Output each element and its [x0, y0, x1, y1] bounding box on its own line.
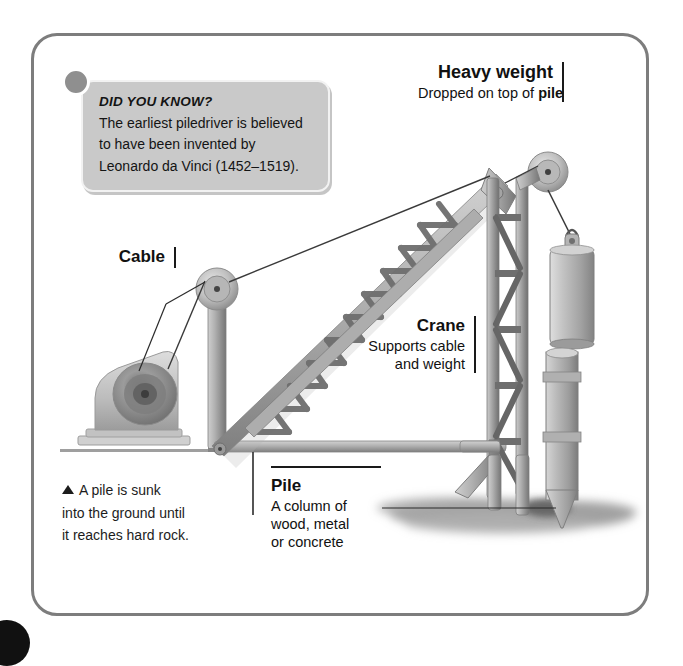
did-you-know-line-3: Leonardo da Vinci (1452–1519). — [99, 156, 314, 177]
label-pile-heading: Pile — [271, 476, 381, 497]
did-you-know-title: DID YOU KNOW? — [99, 94, 314, 109]
label-heavy-weight-sub-prefix: Dropped on top of — [418, 85, 538, 101]
did-you-know-body: The earliest piledriver is believed to h… — [99, 113, 314, 177]
label-heavy-weight-heading: Heavy weight — [418, 62, 553, 84]
did-you-know-callout: DID YOU KNOW? The earliest piledriver is… — [81, 80, 330, 192]
label-pile-sub-3: or concrete — [271, 533, 381, 551]
label-heavy-weight: Heavy weight Dropped on top of pile — [418, 62, 564, 102]
label-crane-sub-1: Supports cable — [355, 337, 465, 355]
label-heavy-weight-sub: Dropped on top of pile — [418, 84, 553, 102]
triangle-up-icon — [62, 485, 74, 494]
caption-line-1: A pile is sunk — [79, 482, 161, 498]
label-cable: Cable — [60, 247, 176, 268]
label-cable-heading: Cable — [60, 247, 165, 268]
figure-caption: A pile is sunk into the ground until it … — [62, 479, 247, 547]
label-heavy-weight-sub-emphasis: pile — [538, 85, 563, 101]
label-pile-sub-1: A column of — [271, 497, 381, 515]
did-you-know-line-1: The earliest piledriver is believed — [99, 113, 314, 134]
label-pile-sub-2: wood, metal — [271, 515, 381, 533]
did-you-know-bullet-dot — [62, 68, 90, 96]
label-crane-sub-2: and weight — [355, 355, 465, 373]
caption-line-3: it reaches hard rock. — [62, 527, 189, 543]
caption-line-2: into the ground until — [62, 505, 185, 521]
label-pile: Pile A column of wood, metal or concrete — [271, 466, 381, 551]
label-crane: Crane Supports cable and weight — [355, 316, 476, 373]
label-crane-heading: Crane — [355, 316, 465, 337]
did-you-know-line-2: to have been invented by — [99, 134, 314, 155]
